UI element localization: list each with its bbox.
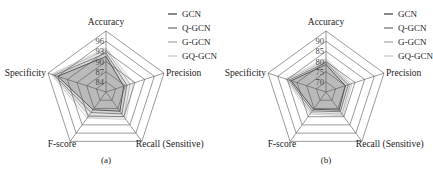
tick-label: 80 — [316, 57, 325, 67]
tick-label: 87 — [96, 67, 105, 77]
legend-label: GQ-GCN — [398, 51, 433, 61]
legend-label: Q-GCN — [398, 23, 427, 33]
grid — [268, 31, 384, 141]
panel-caption: (b) — [321, 155, 332, 165]
tick-label: 75 — [316, 67, 325, 77]
data-series — [51, 48, 133, 119]
axis-label-f-score: F-score — [48, 139, 77, 149]
legend-label: Q-GCN — [182, 23, 211, 33]
radar-figure: 8487909396AccuracyPrecisionRecall (Sensi… — [0, 0, 433, 175]
legend-label: GCN — [398, 9, 418, 19]
axis-label-precision: Precision — [386, 68, 422, 78]
tick-label: 93 — [96, 46, 105, 56]
tick-label: 70 — [316, 77, 325, 87]
legend-label: GCN — [182, 9, 202, 19]
tick-label: 90 — [316, 36, 325, 46]
tick-label: 90 — [96, 57, 105, 67]
axis-label-accuracy: Accuracy — [88, 17, 125, 27]
axis-label-specificity: Specificity — [5, 68, 46, 78]
tick-label: 85 — [316, 46, 325, 56]
legend-label: GQ-GCN — [182, 51, 217, 61]
panel-caption: (a) — [101, 155, 111, 165]
axis-label-recall: Recall (Sensitive) — [136, 139, 204, 150]
axis-label-f-score: F-score — [268, 139, 297, 149]
axis-label-recall: Recall (Sensitive) — [356, 139, 424, 150]
legend-label: G-GCN — [398, 37, 427, 47]
axis-label-accuracy: Accuracy — [308, 17, 345, 27]
tick-label: 96 — [96, 36, 105, 46]
legend-label: G-GCN — [182, 37, 211, 47]
radar-chart-b: 7075808590AccuracyPrecisionRecall (Sensi… — [225, 9, 433, 165]
legend: GCNQ-GCNG-GCNGQ-GCN — [384, 9, 433, 61]
axis-label-precision: Precision — [166, 68, 202, 78]
radar-chart-a: 8487909396AccuracyPrecisionRecall (Sensi… — [5, 9, 218, 165]
axis-label-specificity: Specificity — [225, 68, 266, 78]
tick-label: 84 — [96, 77, 105, 87]
figure: 8487909396AccuracyPrecisionRecall (Sensi… — [0, 0, 433, 175]
legend: GCNQ-GCNG-GCNGQ-GCN — [168, 9, 217, 61]
